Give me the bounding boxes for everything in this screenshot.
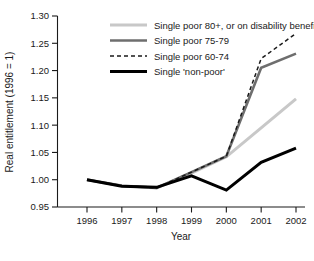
- y-tick-label: 1.30: [31, 10, 50, 21]
- legend: Single poor 80+, or on disability benefi…: [110, 20, 314, 78]
- chart-container: 0.951.001.051.101.151.201.251.30 1996199…: [0, 0, 314, 261]
- x-tick-label: 1996: [76, 215, 97, 226]
- y-tick-label: 1.15: [31, 92, 50, 103]
- y-tick-label: 1.10: [31, 120, 50, 131]
- legend-label-2: Single poor 60-74: [154, 51, 229, 62]
- y-tick-label: 1.25: [31, 38, 50, 49]
- x-tick-label: 2002: [285, 215, 306, 226]
- line-chart-svg: 0.951.001.051.101.151.201.251.30 1996199…: [0, 0, 314, 261]
- x-axis-tick-labels: 1996199719981999200020012002: [76, 215, 306, 226]
- legend-label-1: Single poor 75-79: [154, 35, 229, 46]
- legend-label-3: Single 'non-poor': [154, 66, 225, 77]
- y-tick-label: 0.95: [31, 201, 50, 212]
- x-tick-label: 1999: [181, 215, 202, 226]
- x-tick-label: 1997: [111, 215, 132, 226]
- x-tick-label: 2001: [251, 215, 272, 226]
- x-tick-label: 2000: [216, 215, 237, 226]
- x-tick-label: 1998: [146, 215, 167, 226]
- y-tick-label: 1.00: [31, 174, 50, 185]
- y-tick-label: 1.20: [31, 65, 50, 76]
- y-axis-ticks: [52, 16, 58, 207]
- x-axis-ticks: [87, 207, 296, 213]
- x-axis-title: Year: [171, 231, 192, 242]
- y-axis-tick-labels: 0.951.001.051.101.151.201.251.30: [31, 10, 50, 212]
- y-axis-title: Real entitlement (1996 = 1): [4, 52, 15, 173]
- legend-label-0: Single poor 80+, or on disability benefi…: [154, 20, 314, 31]
- y-tick-label: 1.05: [31, 147, 50, 158]
